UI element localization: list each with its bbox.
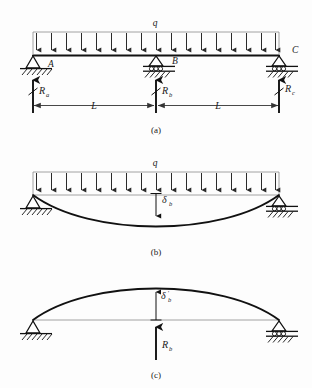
svg-text:b: b [169,345,173,352]
panel-c [20,289,298,361]
svg-text:b: b [169,91,173,98]
caption-a: (a) [151,125,161,135]
panel-c-support-right-roller [266,321,298,343]
panel-b [20,172,298,227]
support-b-roller [143,56,175,78]
caption-b: (b) [151,247,162,257]
panel-b-support-left-pin [20,196,52,215]
panel-b-load-label: q [153,158,158,168]
svg-text:b: b [169,200,173,207]
svg-text:R: R [38,85,45,96]
reaction-label-rc: R c [284,83,295,96]
reaction-label-rb: R b [161,85,173,98]
panel-a [20,32,298,113]
panel-c-support-left-pin [20,321,52,340]
dimension-label-left: L [90,100,97,111]
panel-b-load-region [33,172,279,194]
node-label-c: C [292,45,299,55]
panel-b-support-right-roller [266,196,298,218]
reaction-label-ra: R a [38,85,49,98]
panel-c-reaction-label: R b [161,339,173,352]
panel-c-deflection-arrow [151,292,162,320]
svg-text:b: b [168,296,172,303]
beam-superposition-figure: q A B C R a R b R c L L (a) q δ b (b) δ … [0,0,312,388]
node-label-b: B [172,56,178,66]
support-c-roller [266,56,298,78]
deflection-label-c: δ ′ b [161,289,172,303]
panel-a-load-label: q [153,18,158,28]
svg-text:a: a [46,91,49,98]
svg-text:R: R [161,85,168,96]
svg-text:δ: δ [162,194,167,205]
panel-b-load-arrows [37,173,276,190]
panel-a-reactions [29,80,284,113]
svg-text:δ: δ [161,290,166,301]
svg-text:R: R [161,339,168,350]
deflection-label-b: δ b [162,194,173,207]
node-label-a: A [47,59,54,69]
panel-a-load-region [33,32,279,54]
caption-c: (c) [151,370,161,380]
panel-b-deflection-arrow [151,193,162,216]
svg-text:′: ′ [168,289,170,296]
svg-text:c: c [292,89,295,96]
dimension-label-right: L [214,100,221,111]
svg-text:R: R [284,83,291,94]
panel-a-load-arrows [37,33,276,50]
